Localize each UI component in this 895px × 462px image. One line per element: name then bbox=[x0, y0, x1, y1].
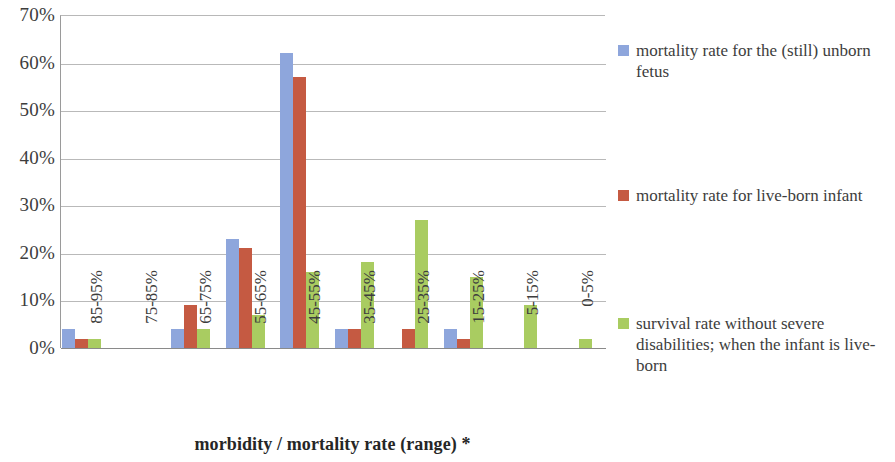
y-axis-tick-label: 30% bbox=[3, 195, 55, 214]
x-axis-tick-label: 75-85% bbox=[132, 350, 152, 434]
x-axis-title: morbidity / mortality rate (range) * bbox=[60, 434, 605, 455]
y-axis-tick-label: 20% bbox=[3, 243, 55, 262]
y-axis-tick-label: 10% bbox=[3, 290, 55, 309]
x-axis-tick-label-text: 75-85% bbox=[142, 270, 162, 354]
x-axis-tick-label-text: 55-65% bbox=[251, 270, 271, 354]
x-axis-tick-label: 5-15% bbox=[513, 350, 533, 434]
x-axis-tick-label: 0-5% bbox=[568, 350, 588, 434]
bar[interactable] bbox=[226, 239, 239, 348]
x-axis-tick-label-text: 85-95% bbox=[87, 270, 107, 354]
bar-chart: 70%60%50%40%30%20%10%0% 85-95%75-85%65-7… bbox=[0, 0, 895, 462]
legend-label: mortality rate for the (still) unborn fe… bbox=[636, 40, 895, 82]
bar[interactable] bbox=[335, 329, 348, 348]
legend-swatch-icon bbox=[618, 190, 629, 201]
bar[interactable] bbox=[348, 329, 361, 348]
chart-legend: mortality rate for the (still) unborn fe… bbox=[618, 0, 895, 400]
x-axis-tick-label: 35-45% bbox=[350, 350, 370, 434]
bar[interactable] bbox=[171, 329, 184, 348]
y-axis: 70%60%50%40%30%20%10%0% bbox=[0, 0, 55, 362]
y-axis-tick-label: 50% bbox=[3, 100, 55, 119]
legend-label: mortality rate for live-born infant bbox=[636, 185, 863, 206]
x-axis-tick-label: 55-65% bbox=[241, 350, 261, 434]
x-axis-tick-label: 65-75% bbox=[186, 350, 206, 434]
x-axis-tick-label: 15-25% bbox=[459, 350, 479, 434]
x-axis-tick-label-text: 35-45% bbox=[360, 270, 380, 354]
x-axis-tick-label: 45-55% bbox=[295, 350, 315, 434]
legend-item[interactable]: mortality rate for live-born infant bbox=[618, 185, 895, 206]
y-axis-tick-label: 40% bbox=[3, 148, 55, 167]
x-axis-tick-label-text: 45-55% bbox=[305, 270, 325, 354]
legend-item[interactable]: survival rate without severe disabilitie… bbox=[618, 313, 895, 376]
legend-item[interactable]: mortality rate for the (still) unborn fe… bbox=[618, 40, 895, 82]
x-axis-tick-label-text: 5-15% bbox=[523, 270, 543, 354]
x-axis-tick-label-text: 65-75% bbox=[196, 270, 216, 354]
x-axis-tick-labels: 85-95%75-85%65-75%55-65%45-55%35-45%25-3… bbox=[60, 350, 605, 435]
y-axis-tick-label: 60% bbox=[3, 53, 55, 72]
bar[interactable] bbox=[457, 339, 470, 349]
x-axis-tick-label: 85-95% bbox=[77, 350, 97, 434]
bar[interactable] bbox=[62, 329, 75, 348]
bar[interactable] bbox=[239, 248, 252, 348]
legend-swatch-icon bbox=[618, 318, 629, 329]
y-axis-tick-label: 0% bbox=[3, 338, 55, 357]
legend-swatch-icon bbox=[618, 45, 629, 56]
legend-label: survival rate without severe disabilitie… bbox=[636, 313, 895, 376]
y-axis-tick-label: 70% bbox=[3, 5, 55, 24]
x-axis-tick-label: 25-35% bbox=[404, 350, 424, 434]
bar[interactable] bbox=[444, 329, 457, 348]
x-axis-tick-label-text: 25-35% bbox=[414, 270, 434, 354]
x-axis-tick-label-text: 15-25% bbox=[469, 270, 489, 354]
bar[interactable] bbox=[280, 53, 293, 348]
x-axis-tick-label-text: 0-5% bbox=[578, 270, 598, 354]
